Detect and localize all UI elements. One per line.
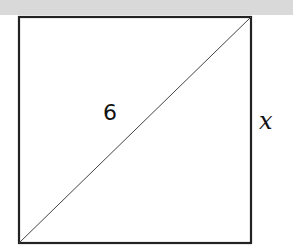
diagonal-label: 6	[103, 100, 117, 125]
square-diagram: 6 x	[0, 0, 293, 251]
diagonal-line	[19, 17, 251, 243]
side-label: x	[259, 107, 273, 135]
